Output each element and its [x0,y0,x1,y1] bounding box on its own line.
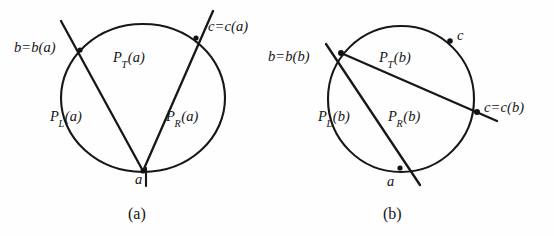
panel-b-label-region-top: PT(b) [379,50,411,68]
panel-a-ellipse-boundary [61,24,225,172]
panel-a-chord-ac [143,11,213,171]
panel-b-vertex-b-dot [338,50,344,56]
panel-b-label-b: b=b(b) [268,49,310,64]
panel-a-chord-ab [61,21,143,171]
panel-b-label-c: c=c(b) [484,100,524,115]
panel-a-label-c: c=c(a) [208,19,248,34]
panel-b-marker-c-dot [447,38,453,44]
panel-b-circle-boundary [328,26,474,172]
panel-a-label-region-left: PL(a) [50,109,82,127]
figure-container: b=b(a) c=c(a) PT(a) PL(a) PR(a) a (a) b=… [0,0,554,236]
panel-b-label-a: a [387,174,394,189]
panel-b-label-region-right: PR(b) [388,109,421,127]
panel-a-graphics [61,11,225,186]
panel-b-graphics [326,26,497,185]
panel-a-vertex-c-dot [193,35,198,40]
panel-a-label-region-top: PT(a) [113,50,145,68]
panel-b-vertex-a-dot [397,165,402,170]
panel-a-label-region-right: PR(a) [166,109,199,127]
panel-b-label-region-left: PL(b) [318,109,350,127]
panel-a-label-b: b=b(a) [14,40,56,55]
panel-a-caption: (a) [128,206,146,222]
panel-b-caption: (b) [383,206,402,222]
panel-b-label-c-marker: c [457,28,464,43]
panel-b-vertex-c-dot [474,109,480,115]
panel-a-vertex-b-dot [77,47,82,52]
figure-svg [0,0,554,236]
panel-a-label-a: a [135,172,142,187]
